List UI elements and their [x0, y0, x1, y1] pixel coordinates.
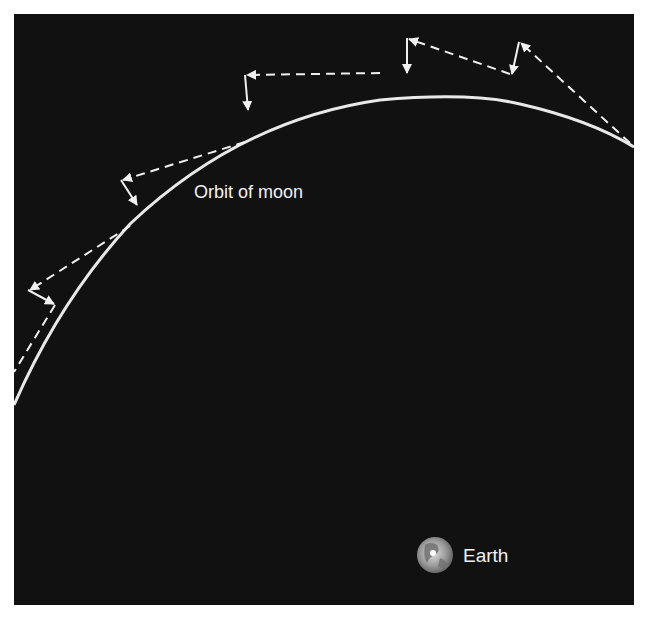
tangent-line-4 [409, 39, 510, 74]
orbit-path [14, 97, 634, 405]
tangent-line-3 [247, 73, 380, 75]
tangent-line-1 [30, 226, 130, 290]
earth-label: Earth [463, 546, 508, 565]
orbit-diagram [0, 0, 648, 619]
fall-arrow-5 [512, 42, 519, 74]
orbit-label: Orbit of moon [194, 183, 303, 201]
fall-arrow-3 [245, 75, 248, 110]
fall-arrow-1 [28, 290, 54, 304]
fall-arrow-2 [121, 180, 137, 205]
tangent-line-2 [123, 142, 245, 180]
earth-globe-icon [417, 537, 453, 573]
tangent-line-5 [521, 43, 630, 143]
